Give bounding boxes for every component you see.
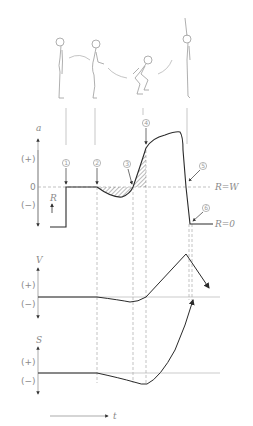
figure-extension — [183, 18, 191, 98]
svg-text:4: 4 — [144, 119, 148, 126]
time-axis: t — [50, 411, 117, 421]
displacement-curve — [38, 300, 193, 384]
a-axis-label: a — [36, 123, 41, 133]
svg-text:5: 5 — [201, 162, 205, 169]
r-equals-w-label: R=W — [214, 182, 239, 192]
acceleration-chart: a (+) 0 (−) R=W R=0 R 1 2 3 — [21, 119, 239, 229]
marker-1: 1 — [62, 159, 69, 184]
jump-biomechanics-diagram: a (+) 0 (−) R=W R=0 R 1 2 3 — [0, 0, 253, 426]
a-plus-label: (+) — [21, 154, 36, 164]
r-equals-zero-label: R=0 — [214, 219, 235, 229]
v-minus-label: (−) — [21, 299, 36, 309]
svg-text:2: 2 — [95, 159, 99, 166]
phase-guides — [66, 108, 187, 145]
v-axis-label: V — [36, 255, 44, 265]
s-plus-label: (+) — [21, 357, 36, 367]
v-plus-label: (+) — [21, 280, 36, 290]
a-minus-label: (−) — [21, 200, 36, 210]
t-axis-label: t — [113, 411, 117, 421]
figure-unweighting — [92, 40, 104, 98]
velocity-curve — [38, 254, 209, 302]
marker-5: 5 — [189, 162, 207, 181]
marker-3: 3 — [123, 160, 132, 184]
displacement-chart: S (+) (−) — [21, 300, 220, 394]
motion-arc-2 — [108, 68, 127, 78]
svg-text:6: 6 — [204, 204, 208, 211]
marker-4: 4 — [142, 119, 149, 144]
marker-6: 6 — [193, 204, 210, 221]
acceleration-curve — [50, 132, 213, 227]
svg-text:1: 1 — [64, 159, 68, 166]
s-minus-label: (−) — [21, 376, 36, 386]
marker-2: 2 — [93, 159, 100, 184]
figure-standing — [56, 38, 64, 98]
svg-text:3: 3 — [125, 160, 129, 167]
r-label: R — [49, 193, 57, 203]
figure-squat — [133, 56, 152, 94]
s-axis-label: S — [36, 335, 42, 345]
motion-arc-3 — [158, 60, 172, 74]
negative-impulse-area — [97, 187, 133, 197]
a-zero-label: 0 — [30, 182, 36, 192]
motion-arc-1 — [69, 55, 90, 60]
